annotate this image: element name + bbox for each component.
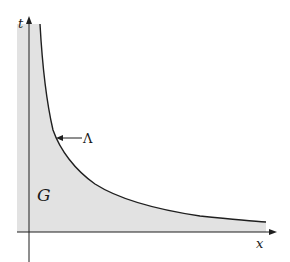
lambda-label: Λ: [82, 131, 93, 146]
region-diagram: t x Λ G: [0, 0, 290, 262]
region-g-label: G: [37, 185, 51, 205]
t-axis-arrowhead-icon: [26, 16, 32, 24]
t-axis-label: t: [18, 16, 24, 31]
x-axis-arrowhead-icon: [269, 229, 277, 235]
x-axis-label: x: [256, 236, 264, 251]
region-g-fill: [17, 24, 266, 232]
